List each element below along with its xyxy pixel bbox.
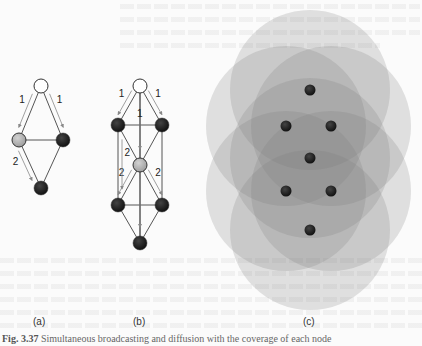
arrow-step-label: 1 xyxy=(19,94,25,105)
panel-b-graph: 111222 xyxy=(111,79,169,250)
sensor-node xyxy=(281,186,292,197)
sensor-node xyxy=(305,85,316,96)
arrow-step-label: 1 xyxy=(119,88,125,99)
arrow-step-label: 2 xyxy=(13,156,19,167)
caption-text: Simultaneous broadcasting and diffusion … xyxy=(41,333,332,344)
sensor-node xyxy=(326,121,337,132)
sensor-node xyxy=(281,121,292,132)
arrow-step-label: 2 xyxy=(155,167,161,178)
sensor-node xyxy=(305,153,316,164)
panel-b-label: (b) xyxy=(133,316,145,327)
sensor-node xyxy=(305,225,316,236)
graph-node-gray xyxy=(133,158,147,172)
graph-node-gray xyxy=(12,133,26,147)
graph-node-black xyxy=(34,181,48,195)
arrow-step-label: 1 xyxy=(57,94,63,105)
figure-canvas: 112 111222 (a) (b) (c) xyxy=(0,0,422,346)
propagation-arrow xyxy=(18,151,32,181)
arrow-step-label: 2 xyxy=(125,147,131,158)
graph-node-black xyxy=(56,133,70,147)
panel-a-label: (a) xyxy=(33,316,45,327)
graph-node-white xyxy=(133,79,147,93)
panel-a-graph: 112 xyxy=(12,79,70,195)
sensor-node xyxy=(326,186,337,197)
panel-c-label: (c) xyxy=(303,316,315,327)
arrow-step-label: 1 xyxy=(137,108,143,119)
graph-edge xyxy=(41,140,63,188)
graph-node-black xyxy=(155,198,169,212)
arrow-step-label: 1 xyxy=(155,88,161,99)
panel-c-coverage xyxy=(206,10,411,310)
graph-node-white xyxy=(34,79,48,93)
graph-node-black xyxy=(133,236,147,250)
figure-caption: Fig. 3.37 Simultaneous broadcasting and … xyxy=(2,333,422,344)
graph-node-black xyxy=(155,118,169,132)
graph-node-black xyxy=(111,118,125,132)
graph-node-black xyxy=(111,198,125,212)
caption-label: Fig. 3.37 xyxy=(2,333,38,344)
graph-edge xyxy=(19,140,41,188)
